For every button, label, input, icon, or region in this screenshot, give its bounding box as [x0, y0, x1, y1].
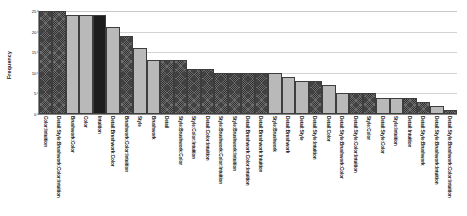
bar-cell: [363, 11, 376, 114]
bar[interactable]: [174, 60, 187, 114]
x-axis-tick-label-text: Color:Intuition: [42, 116, 47, 147]
bar-cell: [336, 11, 349, 114]
bar[interactable]: [417, 102, 430, 114]
x-axis-tick-label-text: Detail:Style:Brushwork:Color: [339, 116, 344, 179]
x-axis-tick-label-text: Detail:Intuition: [406, 116, 411, 147]
x-axis-tick-label-text: Style:Brushwork:Color:Intuition: [218, 116, 223, 184]
bar[interactable]: [336, 93, 349, 114]
bar[interactable]: [268, 73, 281, 114]
x-axis-tick-label-text: Style:Brushwork: [271, 116, 276, 152]
bar[interactable]: [52, 11, 65, 114]
bar-cell: [403, 11, 416, 114]
x-axis-tick-label: Detail:Color: [321, 116, 334, 214]
x-axis-tick-label-text: Brushwork: [150, 116, 155, 140]
x-axis-tick-label: Detail:Style:Brushwork: [416, 116, 429, 214]
bar[interactable]: [241, 73, 254, 114]
bar-cell: [160, 11, 173, 114]
x-axis-tick-label: Style:Color:Intuition: [186, 116, 199, 214]
bar-cell: [444, 11, 457, 114]
x-axis-tick-label-text: Detail:Style: [298, 116, 303, 140]
bar-cell: [133, 11, 146, 114]
bar[interactable]: [66, 15, 79, 114]
x-axis-tick-label: Detail:Style:Brushwork:Intuition: [429, 116, 442, 214]
x-axis-tick-label-text: Detail:Color:Intuition: [204, 116, 209, 161]
bar-cell: [52, 11, 65, 114]
x-axis-tick-label-text: Style:Brushwork:Color: [177, 116, 182, 165]
bar-cell: [93, 11, 106, 114]
x-axis-tick-label: Style:Brushwork:Color: [173, 116, 186, 214]
x-axis-tick-label: Detail:Style:Color:Intuition: [348, 116, 361, 214]
x-axis-tick-label: Style:Brushwork: [267, 116, 280, 214]
bar-cell: [255, 11, 268, 114]
bar[interactable]: [147, 60, 160, 114]
bar-cell: [295, 11, 308, 114]
y-axis-title: Frequency: [2, 30, 16, 100]
x-axis-tick-label: Brushwork:Color: [65, 116, 78, 214]
bar[interactable]: [322, 85, 335, 114]
bar[interactable]: [160, 60, 173, 114]
x-axis-tick-label: Intuition: [92, 116, 105, 214]
bar-cell: [268, 11, 281, 114]
y-axis-tick-mark: [37, 52, 39, 53]
x-axis-tick-label-text: Detail:Style:Brushwork:Color:Intuition: [447, 116, 452, 198]
bar[interactable]: [214, 73, 227, 114]
bar[interactable]: [390, 98, 403, 114]
y-axis-tick-mark: [37, 93, 39, 94]
bar[interactable]: [93, 15, 106, 114]
x-axis-tick-label: Detail:Brushwork:Color: [105, 116, 118, 214]
bar[interactable]: [376, 98, 389, 114]
bar-cell: [349, 11, 362, 114]
x-axis-tick-label-text: Style:Color:Intuition: [191, 116, 196, 159]
x-axis-tick-label-text: Intuition: [96, 116, 101, 134]
bar-cell: [201, 11, 214, 114]
x-axis-tick-label: Style: [132, 116, 145, 214]
x-axis-tick-label: Style:Brushwork:Color:Intuition: [213, 116, 226, 214]
y-axis-tick-mark: [37, 31, 39, 32]
x-axis-tick-label: Style:Brushwork:Intuition: [227, 116, 240, 214]
bar-cell: [214, 11, 227, 114]
bar[interactable]: [309, 81, 322, 114]
x-axis-tick-label-text: Style: [137, 116, 142, 127]
bar[interactable]: [79, 15, 92, 114]
x-axis-tick-label: Color:Intuition: [38, 116, 51, 214]
bar[interactable]: [403, 98, 416, 114]
x-axis-tick-label: Detail:Brushwork:Color:Intuition: [240, 116, 253, 214]
bar[interactable]: [39, 11, 52, 114]
bar[interactable]: [295, 81, 308, 114]
bar[interactable]: [282, 77, 295, 114]
x-axis-tick-label: Detail:Style:Intuition: [308, 116, 321, 214]
x-axis-tick-label-text: Detail:Brushwork: [285, 116, 290, 153]
bar[interactable]: [133, 48, 146, 114]
bar-cell: [187, 11, 200, 114]
bar-cell: [417, 11, 430, 114]
x-axis-tick-label: Detail:Style:Brushwork:Color:Intuition: [443, 116, 456, 214]
x-axis-tick-label: Brushwork:Color:Intuition: [119, 116, 132, 214]
bar-cell: [174, 11, 187, 114]
bar[interactable]: [363, 93, 376, 114]
bar[interactable]: [201, 69, 214, 114]
bar-cell: [282, 11, 295, 114]
x-axis-tick-label: Style:Color: [362, 116, 375, 214]
x-axis-tick-label-text: Style:Intuition: [393, 116, 398, 146]
x-axis-tick-label: Detail:Style:Brushwork:Color:Intuition: [51, 116, 64, 214]
bar[interactable]: [430, 106, 443, 114]
bar[interactable]: [228, 73, 241, 114]
bar[interactable]: [120, 36, 133, 114]
x-axis-tick-label: Detail:Style: [294, 116, 307, 214]
x-axis-tick-label: Detail:Brushwork:Intuition: [254, 116, 267, 214]
bar[interactable]: [187, 69, 200, 114]
bar[interactable]: [255, 73, 268, 114]
x-axis-tick-label-text: Detail:Brushwork:Intuition: [258, 116, 263, 172]
bar-cell: [106, 11, 119, 114]
bar-cell: [390, 11, 403, 114]
bar-cell: [147, 11, 160, 114]
x-axis-tick-label-text: Detail:Style:Brushwork:Color:Intuition: [56, 116, 61, 198]
bar[interactable]: [106, 27, 119, 114]
bar[interactable]: [444, 110, 457, 114]
x-axis-tick-label-text: Detail:Color: [325, 116, 330, 141]
x-axis-tick-label-text: Detail:Style:Brushwork:Intuition: [433, 116, 438, 185]
y-axis-title-text: Frequency: [6, 51, 12, 79]
x-axis-tick-label: Color: [78, 116, 91, 214]
x-axis-tick-label: Detail:Style:Color: [375, 116, 388, 214]
bar[interactable]: [349, 93, 362, 114]
